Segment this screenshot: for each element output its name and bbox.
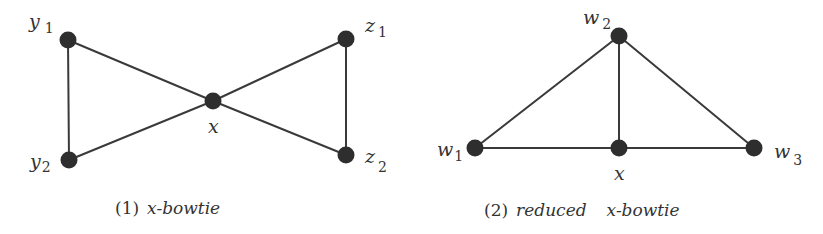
- edge-y1-y2: [68, 40, 69, 160]
- node-x: [205, 93, 222, 110]
- node-z1: [338, 31, 355, 48]
- label-w1: w1: [437, 138, 463, 164]
- node-y2: [61, 152, 78, 169]
- edges: [475, 36, 754, 148]
- figure-x-bowtie: y1 y2 x z1 z2 (1)x-bowtie: [28, 10, 387, 218]
- node-z2: [338, 147, 355, 164]
- edge-y1-x: [68, 40, 213, 101]
- node-w2: [611, 28, 628, 45]
- node-w1: [467, 140, 484, 157]
- label-z1: z1: [364, 14, 387, 40]
- label-x2: x: [614, 162, 625, 184]
- edge-x-z2: [213, 101, 346, 155]
- node-y1: [60, 32, 77, 49]
- edge-w2-w3: [619, 36, 754, 148]
- caption-2: (2)reducedx-bowtie: [484, 200, 680, 220]
- node-x2: [611, 140, 628, 157]
- label-w2: w2: [583, 6, 611, 32]
- figure-reduced-x-bowtie: w1 w2 w3 x (2)reducedx-bowtie: [437, 6, 802, 220]
- edge-w1-w2: [475, 36, 619, 148]
- bowtie-diagram: y1 y2 x z1 z2 (1)x-bowtie w1 w2 w3 x (2)…: [0, 0, 823, 234]
- label-y1: y1: [28, 10, 54, 36]
- caption-1: (1)x-bowtie: [115, 198, 220, 218]
- label-z2: z2: [364, 145, 387, 175]
- label-x: x: [208, 115, 219, 137]
- node-w3: [746, 140, 763, 157]
- edge-x-z1: [213, 39, 346, 101]
- edge-y2-x: [69, 101, 213, 160]
- label-w3: w3: [774, 140, 802, 168]
- label-y2: y2: [29, 150, 51, 175]
